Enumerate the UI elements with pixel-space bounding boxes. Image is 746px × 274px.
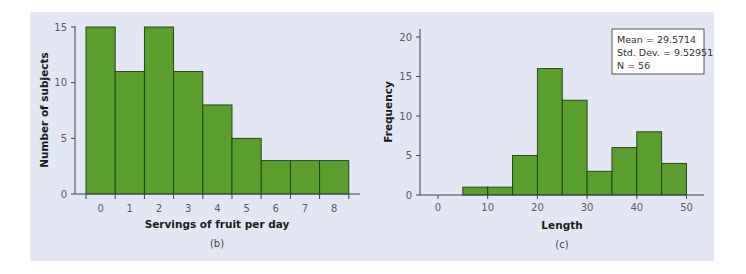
histogram-bar [662,163,687,195]
panel-caption: (c) [555,239,568,250]
y-tick-label: 20 [399,32,412,43]
histogram-length: 0510152001020304050LengthFrequency(c)Mea… [0,0,746,274]
y-tick-label: 15 [399,71,412,82]
x-tick-label: 40 [630,202,643,213]
y-tick-label: 10 [399,111,412,122]
histogram-bar [587,171,612,195]
histogram-bar [637,132,662,195]
y-axis-title: Frequency [382,81,394,143]
x-tick-label: 0 [435,202,441,213]
histogram-bar [612,148,637,195]
stats-n: N = 56 [617,60,650,71]
stats-std-dev: Std. Dev. = 9.52951 [617,47,713,58]
stats-mean: Mean = 29.5714 [617,34,696,45]
x-tick-label: 30 [581,202,594,213]
histogram-bar [463,187,488,195]
y-tick-label: 0 [406,190,412,201]
histogram-bar [537,69,562,195]
histogram-bar [562,100,587,195]
x-tick-label: 10 [481,202,494,213]
x-axis-title: Length [541,219,582,231]
histogram-bar [488,187,513,195]
histogram-bar [513,156,538,196]
x-tick-label: 20 [531,202,544,213]
y-tick-label: 5 [406,150,412,161]
x-tick-label: 50 [680,202,693,213]
